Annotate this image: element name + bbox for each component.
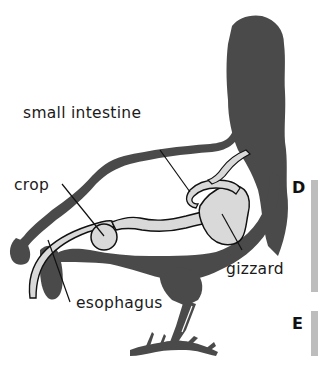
toe-1 bbox=[146, 332, 154, 346]
label-crop: crop bbox=[14, 178, 49, 194]
leader-small-intestine bbox=[160, 150, 190, 192]
label-small-intestine: small intestine bbox=[23, 106, 141, 122]
label-esophagus: esophagus bbox=[76, 296, 163, 312]
thigh-silhouette bbox=[160, 267, 203, 306]
small-intestine-tube bbox=[208, 150, 250, 184]
gizzard-organ bbox=[199, 185, 249, 245]
feet-silhouette bbox=[130, 341, 218, 357]
bar-e bbox=[311, 311, 318, 356]
marker-d: D bbox=[292, 180, 305, 196]
crop-organ bbox=[91, 224, 117, 250]
bar-d bbox=[311, 180, 318, 292]
label-gizzard: gizzard bbox=[226, 262, 284, 278]
marker-e: E bbox=[292, 316, 303, 332]
bird-digestive-diagram: small intestine crop gizzard esophagus D… bbox=[0, 0, 320, 366]
